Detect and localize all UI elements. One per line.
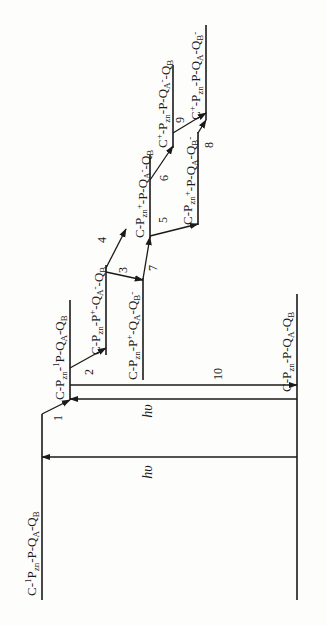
state-label-pzn-1p: C-Pzn-1P-QA-QB <box>51 315 69 400</box>
transition-label-8: 8 <box>202 142 216 148</box>
state-label-part: -P <box>188 95 203 107</box>
state-label-part: B <box>31 511 41 517</box>
state-label-part: C-P <box>180 205 195 225</box>
state-label-part: -P <box>88 315 103 327</box>
state-label-part: -Q <box>183 145 198 159</box>
transition-label-9: 9 <box>173 117 187 123</box>
state-label-c-1pzn: C-1Pzn-P-QA-QB <box>23 511 41 596</box>
state-label-part: - <box>185 137 195 140</box>
state-label-part: B <box>98 267 108 273</box>
state-label-part: -Q <box>125 300 140 314</box>
state-label-part: C-P <box>125 360 140 380</box>
state-label-part: C- <box>24 583 39 596</box>
state-label-part: -P-Q <box>155 88 170 114</box>
energy-level-diagram: C-Pzn-P-QA-QBC-1Pzn-P-QA-QBC-Pzn-1P-QA-Q… <box>0 0 327 626</box>
state-label-c-plus-qb-minus: C+-Pzn-P-QA-QB- <box>187 32 205 120</box>
state-label-part: B <box>59 315 69 321</box>
state-label-part: -Q <box>138 155 153 169</box>
transition-label-4: 4 <box>95 237 109 243</box>
state-label-part: C <box>155 139 170 148</box>
transition-label-hv2: hυ <box>140 404 155 417</box>
transition-arrow-7 <box>143 237 150 279</box>
state-label-part: C <box>188 111 203 120</box>
transition-label-1: 1 <box>51 415 65 421</box>
state-label-part: C-P <box>132 218 147 238</box>
state-label-part: C-P <box>279 372 294 392</box>
state-label-p-plus-qb-minus: C-Pzn-P+-QA-QB- <box>124 292 142 380</box>
state-label-c-plus-qa-minus: C+-Pzn-P-QA--QB <box>154 60 175 148</box>
state-label-part: B <box>286 312 296 318</box>
state-label-part: P-Q <box>52 341 67 363</box>
state-label-part: B <box>145 150 155 156</box>
state-label-part: -Q <box>279 317 294 331</box>
state-label-ground: C-Pzn-P-QA-QB <box>279 312 296 392</box>
state-label-part: -P-Q <box>24 537 39 563</box>
state-label-part: C-P <box>88 335 103 355</box>
state-label-part: C-P <box>52 380 67 400</box>
state-label-part: B <box>165 60 175 66</box>
state-label-pzn-plus-qa-minus: C-Pzn+-P-QA--QB <box>132 150 155 238</box>
state-label-part: -Q <box>52 321 67 335</box>
state-label-part: - <box>190 32 200 35</box>
state-label-part: -P <box>155 123 170 135</box>
state-label-p-plus-qa-minus: C-Pzn-P+-QA--QB <box>87 267 108 355</box>
state-label-part: -Q <box>24 517 39 531</box>
transition-label-3: 3 <box>116 267 130 273</box>
state-label-part: -P-Q <box>135 178 150 204</box>
state-label-part: -Q <box>125 320 140 334</box>
transition-arrow-8 <box>198 120 206 133</box>
transition-label-2: 2 <box>82 369 96 375</box>
transition-label-6: 6 <box>157 175 171 181</box>
transition-arrow-4 <box>106 229 126 268</box>
state-label-part: -P-Q <box>183 165 198 191</box>
transition-label-5: 5 <box>156 217 170 223</box>
state-label-part: -P-Q <box>188 60 203 86</box>
state-label-part: - <box>127 292 137 295</box>
state-label-part: -P <box>125 340 140 352</box>
state-label-part: -Q <box>88 295 103 309</box>
state-label-part: -Q <box>158 65 173 79</box>
state-label-part: -Q <box>91 272 106 286</box>
transition-label-10: 10 <box>211 368 225 380</box>
state-label-pzn-plus-qb-minus: C-Pzn+-P-QA-QB- <box>180 137 200 225</box>
transition-label-hv1: hυ <box>140 465 155 478</box>
transition-arrow-1 <box>42 400 70 414</box>
state-label-part: -Q <box>188 40 203 54</box>
state-label-part: -P-Q <box>279 337 294 363</box>
state-label-part: P <box>24 571 39 578</box>
transition-label-7: 7 <box>146 265 160 271</box>
